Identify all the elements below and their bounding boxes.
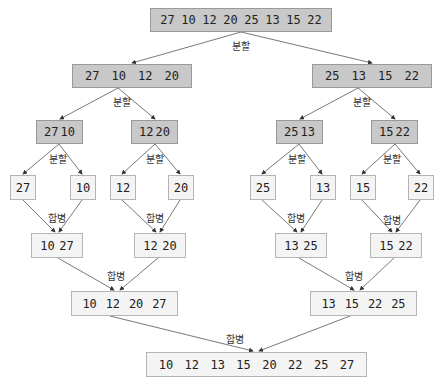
array-value: 20 [162,239,176,253]
merge-l1-box: 10 27 [31,233,83,258]
array-value: 12 [139,125,153,139]
array-value: 12 [143,239,157,253]
array-value: 10 [112,69,126,83]
merge-label: 합병 [226,331,244,346]
merge-l1-box: 15 22 [370,233,422,258]
array-value: 20 [223,13,237,27]
array-value: 20 [174,181,188,195]
array-value: 13 [284,239,298,253]
array-value: 22 [396,125,410,139]
array-value: 12 [116,181,130,195]
array-value: 10 [61,125,75,139]
leaf-box: 13 [310,175,336,200]
split-l2-box: 12 20 [131,120,178,144]
array-value: 10 [159,358,173,372]
leaf-box: 10 [70,175,96,200]
leaf-box: 15 [350,175,376,200]
array-value: 25 [303,239,317,253]
merge-sort-diagram: 분할 분할 분할 분할 분할 분할 분할 합병 합병 합병 합병 합병 합병 합… [0,0,440,387]
split-l2-box: 15 22 [371,120,418,144]
array-value: 20 [165,69,179,83]
array-value: 27 [340,358,354,372]
leaf-box: 25 [250,175,276,200]
split-label: 분할 [288,151,306,166]
root-array-box: 27 10 12 20 25 13 15 22 [150,8,332,32]
array-value: 22 [288,358,302,372]
split-l1-left-box: 27 10 12 20 [72,64,192,88]
merge-l1-box: 12 20 [134,233,186,258]
merge-l1-box: 13 25 [275,233,327,258]
array-value: 20 [156,125,170,139]
merge-l2-right-box: 13 15 22 25 [310,291,417,316]
array-value: 10 [82,297,96,311]
array-value: 22 [398,239,412,253]
array-value: 25 [314,358,328,372]
merge-l2-left-box: 10 12 20 27 [71,291,178,316]
array-value: 10 [181,13,195,27]
array-value: 27 [152,297,166,311]
array-value: 20 [262,358,276,372]
leaf-box: 22 [408,175,434,200]
merge-label: 합병 [48,210,66,225]
array-value: 22 [368,297,382,311]
split-label: 분할 [232,38,250,53]
split-l2-box: 25 13 [276,120,323,144]
array-value: 27 [85,69,99,83]
split-label: 분할 [383,151,401,166]
array-value: 12 [106,297,120,311]
array-value: 13 [316,181,330,195]
array-value: 20 [129,297,143,311]
merge-label: 합병 [383,212,401,227]
split-label: 분할 [353,94,371,109]
split-label: 분할 [113,94,131,109]
array-value: 12 [185,358,199,372]
array-value: 13 [301,125,315,139]
array-value: 10 [40,239,54,253]
split-label: 분할 [146,151,164,166]
merge-label: 합병 [146,210,164,225]
array-value: 22 [307,13,321,27]
merge-label: 합병 [107,268,125,283]
array-value: 25 [391,297,405,311]
array-value: 27 [16,181,30,195]
array-value: 13 [321,297,335,311]
array-value: 22 [405,69,419,83]
split-l1-right-box: 25 13 15 22 [312,64,432,88]
array-value: 25 [244,13,258,27]
array-value: 13 [352,69,366,83]
array-value: 27 [44,125,58,139]
array-value: 15 [379,125,393,139]
array-value: 12 [138,69,152,83]
array-value: 13 [265,13,279,27]
leaf-box: 27 [10,175,36,200]
array-value: 27 [160,13,174,27]
array-value: 15 [236,358,250,372]
array-value: 13 [210,358,224,372]
merge-label: 합병 [345,268,363,283]
array-value: 15 [356,181,370,195]
array-value: 25 [256,181,270,195]
array-value: 15 [286,13,300,27]
array-value: 25 [284,125,298,139]
array-value: 22 [414,181,428,195]
split-l2-box: 27 10 [36,120,83,144]
array-value: 10 [76,181,90,195]
array-value: 15 [378,69,392,83]
array-value: 25 [325,69,339,83]
array-value: 15 [379,239,393,253]
leaf-box: 20 [168,175,194,200]
array-value: 15 [345,297,359,311]
final-sorted-box: 10 12 13 15 20 22 25 27 [146,352,367,377]
array-value: 12 [202,13,216,27]
leaf-box: 12 [110,175,136,200]
merge-label: 합병 [287,210,305,225]
split-label: 분할 [49,151,67,166]
array-value: 27 [59,239,73,253]
